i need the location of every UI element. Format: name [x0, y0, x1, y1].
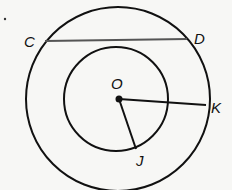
- center-point-o: [116, 96, 123, 103]
- label-j: J: [135, 152, 144, 169]
- label-k: K: [211, 99, 222, 116]
- label-c: C: [24, 33, 35, 50]
- radius-oj: [119, 99, 136, 149]
- radius-ok: [119, 99, 206, 105]
- problem-bullet-dot: [4, 18, 6, 20]
- label-d: D: [194, 30, 205, 47]
- chord-cd: [45, 39, 187, 41]
- concentric-circles-diagram: C D O K J: [0, 0, 232, 190]
- label-o: O: [111, 75, 123, 92]
